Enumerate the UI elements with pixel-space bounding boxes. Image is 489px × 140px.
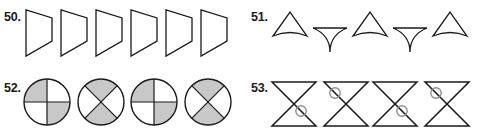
shape-quartered-circle-4 [185, 79, 231, 125]
shape-curved-triangle-up-5 [433, 12, 467, 36]
shape-quartered-circle-3 [131, 79, 177, 125]
problem-51: 51. [245, 0, 489, 70]
shape-quartered-circle-2 [78, 79, 124, 125]
problem-number-52: 52. [4, 81, 21, 95]
problem-number-53: 53. [251, 81, 268, 95]
shape-quartered-circle-1 [24, 79, 70, 125]
shape-quadrilateral-arrow-4 [131, 10, 157, 56]
problem-53-figures [268, 70, 489, 140]
shape-curved-triangle-down-2 [313, 28, 347, 52]
problem-52-figures [21, 70, 245, 140]
shape-quadrilateral-arrow-3 [96, 10, 122, 56]
worksheet-sheet: 50. 51. [0, 0, 489, 140]
shape-curved-triangle-up-1 [273, 12, 307, 36]
problem-52-figure-row [21, 76, 236, 130]
shape-hourglass-4 [425, 82, 469, 126]
problem-50-figure-row [21, 4, 236, 62]
shape-quadrilateral-arrow-6 [201, 10, 227, 56]
shape-quadrilateral-arrow-2 [61, 10, 87, 56]
shape-hourglass-3 [373, 82, 417, 126]
problem-52: 52. [0, 70, 245, 140]
problem-number-51: 51. [251, 10, 268, 24]
problem-50: 50. [0, 0, 245, 70]
problem-51-figures [268, 0, 489, 70]
shape-hourglass-1 [272, 82, 316, 126]
problem-51-figure-row [268, 6, 473, 62]
problem-number-50: 50. [4, 10, 21, 24]
shape-quadrilateral-arrow-5 [166, 10, 192, 56]
shape-curved-triangle-down-4 [393, 28, 427, 52]
shape-hourglass-2 [324, 82, 368, 126]
shape-quadrilateral-arrow-1 [26, 10, 52, 56]
problem-53: 53. [245, 70, 489, 140]
problem-50-figures [21, 0, 245, 70]
problem-53-figure-row [268, 76, 473, 132]
shape-curved-triangle-up-3 [353, 12, 387, 36]
